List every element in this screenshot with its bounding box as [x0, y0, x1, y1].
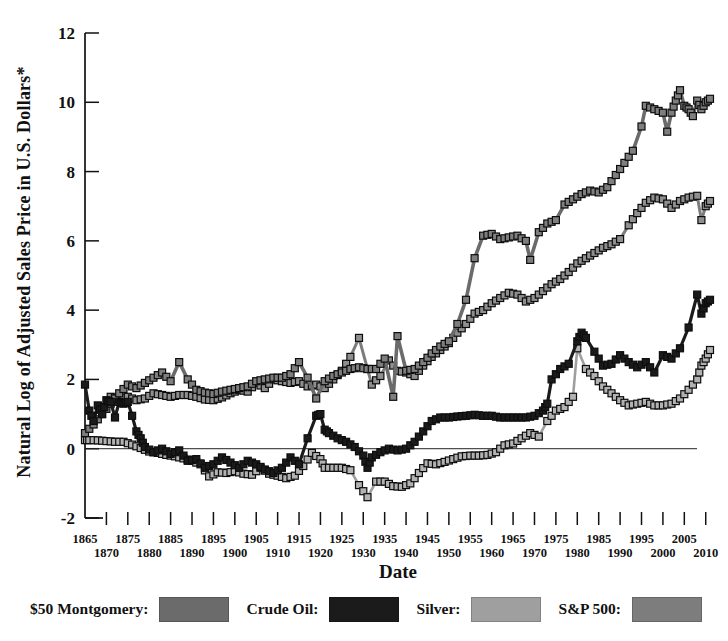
x-tick-label: 1865: [73, 532, 98, 546]
data-point-marker: [317, 411, 324, 418]
data-point-marker: [698, 217, 705, 224]
data-point-marker: [112, 414, 119, 421]
x-tick-label: 1880: [137, 546, 162, 560]
legend-label-crude-oil: Crude Oil:: [247, 600, 319, 618]
data-point-marker: [129, 412, 136, 419]
x-axis-title: Date: [379, 561, 417, 583]
data-point-marker: [544, 400, 551, 407]
data-point-marker: [527, 256, 534, 263]
data-point-marker: [617, 236, 624, 243]
data-point-marker: [552, 217, 559, 224]
y-tick-label: 4: [67, 301, 76, 320]
data-point-marker: [463, 296, 470, 303]
legend-item-montgomery: $50 Montgomery:: [30, 597, 229, 622]
data-point-marker: [454, 321, 461, 328]
x-tick-label: 1890: [180, 546, 205, 560]
x-tick-label: 1960: [479, 546, 504, 560]
x-tick-label: 1870: [94, 546, 119, 560]
x-tick-label: 1950: [436, 546, 461, 560]
data-point-marker: [694, 192, 701, 199]
x-tick-label: 2005: [672, 532, 697, 546]
x-tick-label: 1990: [608, 546, 633, 560]
data-point-marker: [582, 334, 589, 341]
price-history-chart-figure: 121086420-218651875188518951905191519251…: [0, 0, 728, 641]
y-axis-title: Natural Log of Adjusted Sales Price in U…: [14, 66, 35, 477]
data-point-marker: [629, 147, 636, 154]
data-point-marker: [707, 95, 714, 102]
data-point-marker: [638, 123, 645, 130]
data-point-marker: [82, 381, 89, 388]
data-point-marker: [522, 237, 529, 244]
legend-item-crude-oil: Crude Oil:: [247, 597, 400, 622]
data-point-marker: [381, 355, 388, 362]
y-tick-label: 0: [67, 440, 76, 459]
legend-swatch-montgomery: [159, 597, 229, 622]
x-tick-label: 1915: [287, 532, 312, 546]
y-tick-label: 2: [67, 370, 76, 389]
data-point-marker: [591, 348, 598, 355]
data-point-marker: [394, 333, 401, 340]
data-point-marker: [677, 345, 684, 352]
x-tick-label: 1905: [244, 532, 269, 546]
x-tick-label: 1965: [501, 532, 526, 546]
data-point-marker: [445, 338, 452, 345]
data-point-marker: [565, 360, 572, 367]
data-point-marker: [124, 398, 131, 405]
data-point-marker: [167, 378, 174, 385]
legend-item-sp500: S&P 500:: [559, 597, 702, 622]
data-point-marker: [689, 113, 696, 120]
data-point-marker: [304, 435, 311, 442]
series-line: [85, 90, 710, 433]
data-point-marker: [390, 393, 397, 400]
x-tick-label: 1885: [158, 532, 183, 546]
legend-label-montgomery: $50 Montgomery:: [30, 600, 148, 618]
y-tick-label: -2: [61, 509, 75, 528]
data-point-marker: [595, 355, 602, 362]
data-point-marker: [356, 334, 363, 341]
data-point-marker: [304, 456, 311, 463]
data-point-marker: [176, 359, 183, 366]
x-tick-label: 1895: [201, 532, 226, 546]
y-tick-label: 10: [58, 93, 75, 112]
data-point-marker: [659, 109, 666, 116]
y-tick-label: 6: [67, 232, 76, 251]
data-point-marker: [377, 373, 384, 380]
data-point-marker: [364, 494, 371, 501]
data-point-marker: [304, 374, 311, 381]
y-tick-label: 8: [67, 163, 76, 182]
data-point-marker: [570, 393, 577, 400]
x-tick-label: 1980: [565, 546, 590, 560]
data-point-marker: [694, 291, 701, 298]
data-point-marker: [296, 359, 303, 366]
data-point-marker: [707, 198, 714, 205]
legend-swatch-crude-oil: [329, 597, 399, 622]
legend-label-silver: Silver:: [417, 600, 461, 618]
data-point-marker: [677, 87, 684, 94]
x-tick-label: 1955: [458, 532, 483, 546]
legend-item-silver: Silver:: [417, 597, 542, 622]
data-point-marker: [90, 418, 97, 425]
x-tick-label: 1995: [629, 532, 654, 546]
legend-label-sp500: S&P 500:: [559, 600, 621, 618]
series-line: [85, 295, 710, 473]
data-point-marker: [535, 433, 542, 440]
x-tick-label: 1945: [415, 532, 440, 546]
chart-plot-area: 121086420-218651875188518951905191519251…: [0, 0, 728, 588]
data-point-marker: [694, 376, 701, 383]
data-point-marker: [471, 255, 478, 262]
data-point-marker: [707, 296, 714, 303]
x-tick-label: 1875: [115, 532, 140, 546]
legend-swatch-silver: [471, 597, 541, 622]
x-tick-label: 1925: [329, 532, 354, 546]
x-tick-label: 1970: [522, 546, 547, 560]
data-point-marker: [696, 369, 703, 376]
data-point-marker: [685, 324, 692, 331]
x-tick-label: 1900: [222, 546, 247, 560]
data-point-marker: [707, 347, 714, 354]
x-tick-label: 1910: [265, 546, 290, 560]
x-tick-label: 2010: [693, 546, 718, 560]
series--50-montgomery: [82, 87, 714, 437]
x-tick-label: 1975: [543, 532, 568, 546]
data-point-marker: [99, 411, 106, 418]
x-tick-label: 1985: [586, 532, 611, 546]
